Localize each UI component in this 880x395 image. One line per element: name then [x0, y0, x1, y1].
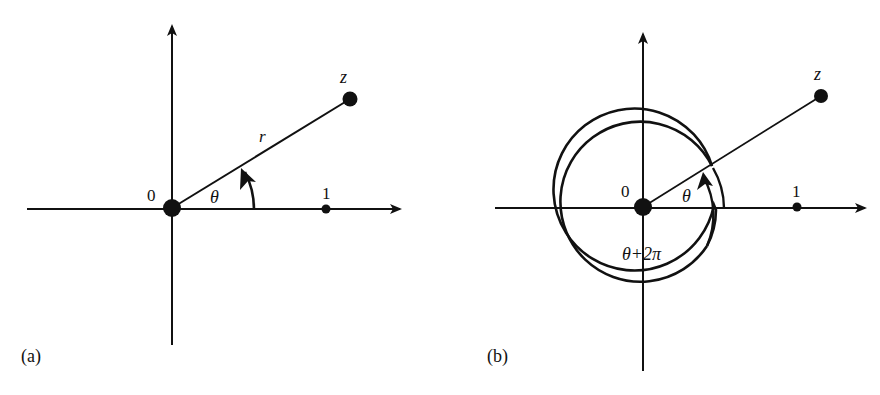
- unit-label-b: 1: [792, 183, 801, 200]
- origin-dot-b: [634, 198, 652, 216]
- panel-b: [495, 34, 865, 371]
- origin-label-b: 0: [621, 183, 630, 200]
- angle-arc-b: [713, 168, 724, 208]
- z-point-b: [814, 89, 828, 103]
- theta-symbol: θ+2π: [622, 244, 661, 264]
- z-point-a: [343, 92, 358, 107]
- origin-dot-a: [163, 199, 181, 217]
- angle-label-a: θ: [210, 188, 219, 206]
- angle-arrowhead-a: [240, 168, 256, 190]
- origin-label-a: 0: [147, 187, 156, 204]
- angle-label-b: θ: [682, 187, 691, 205]
- unit-point-a: [322, 205, 331, 214]
- z-label-b: z: [814, 65, 821, 83]
- complex-plane-diagrams: [0, 0, 880, 395]
- full-angle-label-b: θ+2π: [622, 245, 661, 263]
- caption-b: (b): [487, 347, 508, 365]
- z-label-a: z: [340, 68, 347, 86]
- unit-point-b: [793, 203, 802, 212]
- radius-label-a: r: [259, 128, 266, 145]
- unit-label-a: 1: [322, 185, 331, 202]
- caption-a: (a): [21, 347, 41, 365]
